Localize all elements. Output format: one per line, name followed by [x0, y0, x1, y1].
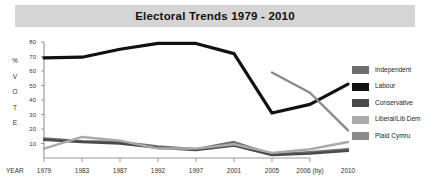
legend-swatch-plaid-cymru — [352, 132, 369, 140]
electoral-trends-chart: Electoral Trends 1979 - 2010 % V O T E 8… — [0, 0, 429, 183]
legend-item-conservative: Conservative — [352, 99, 421, 107]
legend-swatch-conservative — [352, 99, 369, 107]
chart-legend: Independent Labour Conservative Liberal/… — [352, 66, 421, 140]
legend-label-plaid-cymru: Plaid Cymru — [375, 133, 410, 140]
legend-item-liberal-lib-dem: Liberal/Lib Dem — [352, 116, 421, 124]
legend-item-independent: Independent — [352, 66, 421, 74]
chart-title-bar: Electoral Trends 1979 - 2010 — [15, 5, 415, 27]
x-tick-label-2010: 2010 — [324, 168, 372, 175]
legend-item-plaid-cymru: Plaid Cymru — [352, 132, 421, 140]
page-title: Electoral Trends 1979 - 2010 — [135, 10, 295, 22]
legend-label-liberal-lib-dem: Liberal/Lib Dem — [375, 116, 421, 123]
legend-label-conservative: Conservative — [375, 100, 413, 107]
legend-label-labour: Labour — [375, 83, 395, 90]
legend-swatch-liberal-lib-dem — [352, 116, 369, 124]
legend-item-labour: Labour — [352, 83, 421, 91]
legend-swatch-independent — [352, 66, 369, 74]
legend-label-independent: Independent — [375, 67, 411, 74]
legend-swatch-labour — [352, 83, 369, 91]
